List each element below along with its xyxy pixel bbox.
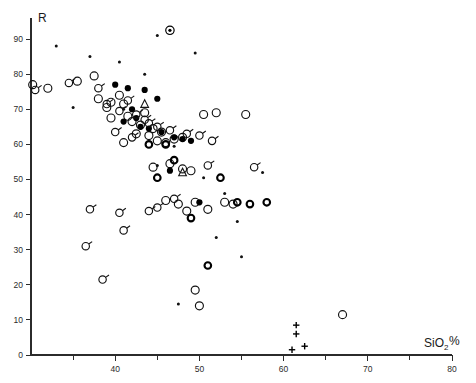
marker-small-dot	[156, 164, 159, 167]
x-axis-title-percent: %	[449, 334, 460, 348]
y-axis-title: R	[38, 11, 47, 25]
marker-filled-circle	[137, 124, 143, 130]
marker-filled-circle	[142, 87, 148, 93]
x-tick-label: 70	[363, 364, 373, 374]
marker-bullseye-center	[168, 29, 171, 32]
x-tick-label: 40	[110, 364, 120, 374]
marker-small-dot	[156, 34, 159, 37]
marker-small-dot	[223, 192, 226, 195]
marker-filled-circle	[112, 82, 118, 88]
marker-filled-circle	[167, 168, 173, 174]
y-tick-label: 0	[18, 350, 23, 360]
marker-small-dot	[177, 303, 180, 306]
marker-filled-circle	[154, 96, 160, 102]
y-tick-label: 20	[14, 280, 24, 290]
marker-small-dot	[72, 106, 75, 109]
marker-filled-circle	[188, 138, 194, 144]
y-tick-label: 40	[14, 210, 24, 220]
y-tick-label: 70	[14, 104, 24, 114]
marker-small-dot	[173, 145, 176, 148]
marker-small-dot	[194, 52, 197, 55]
marker-small-dot	[261, 171, 264, 174]
y-tick-label: 90	[14, 34, 24, 44]
marker-small-dot	[236, 220, 239, 223]
scatter-chart-figure: 0102030405060708090 4050607080 R SiO 2 %	[0, 0, 476, 383]
chart-background	[0, 0, 476, 383]
marker-small-dot	[118, 60, 121, 63]
y-tick-label: 60	[14, 139, 24, 149]
y-tick-label: 80	[14, 69, 24, 79]
marker-small-dot	[240, 255, 243, 258]
marker-small-dot	[88, 55, 91, 58]
marker-small-dot	[215, 236, 218, 239]
marker-filled-circle	[196, 199, 202, 205]
marker-small-dot	[55, 45, 58, 48]
x-tick-label: 80	[447, 364, 457, 374]
x-tick-label: 50	[195, 364, 205, 374]
y-tick-label: 50	[14, 174, 24, 184]
x-tick-label: 60	[279, 364, 289, 374]
y-tick-label: 10	[14, 315, 24, 325]
marker-filled-circle	[121, 118, 127, 124]
scatter-plot-svg: 0102030405060708090 4050607080 R SiO 2 %	[0, 0, 476, 383]
y-tick-label: 30	[14, 245, 24, 255]
marker-filled-circle	[171, 134, 177, 140]
marker-filled-circle	[125, 85, 131, 91]
x-axis-title-base: SiO	[424, 336, 444, 350]
marker-small-dot	[202, 176, 205, 179]
marker-small-dot	[143, 73, 146, 76]
